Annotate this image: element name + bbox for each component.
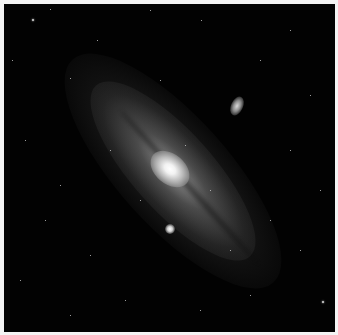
star [200, 310, 201, 311]
star [125, 300, 126, 301]
star [300, 250, 301, 251]
star [310, 95, 311, 96]
galaxy-photo [4, 4, 335, 332]
star [45, 220, 46, 221]
satellite-galaxy-upper [227, 94, 246, 117]
star [70, 78, 71, 79]
star [290, 150, 291, 151]
star [160, 80, 161, 81]
star [12, 60, 13, 61]
star [20, 280, 21, 281]
star [210, 190, 211, 191]
star [185, 145, 186, 146]
star [97, 40, 98, 41]
star [25, 140, 26, 141]
star [60, 185, 61, 186]
star [322, 301, 324, 303]
star [250, 295, 251, 296]
star [140, 200, 141, 201]
star [50, 9, 51, 10]
star [230, 250, 231, 251]
star [32, 19, 34, 21]
star [320, 190, 321, 191]
star [150, 10, 151, 11]
star [260, 60, 261, 61]
satellite-galaxy-lower [165, 224, 175, 234]
star [110, 150, 111, 151]
star [90, 255, 91, 256]
star [290, 30, 291, 31]
star [270, 220, 271, 221]
star [70, 315, 71, 316]
star [201, 20, 202, 21]
